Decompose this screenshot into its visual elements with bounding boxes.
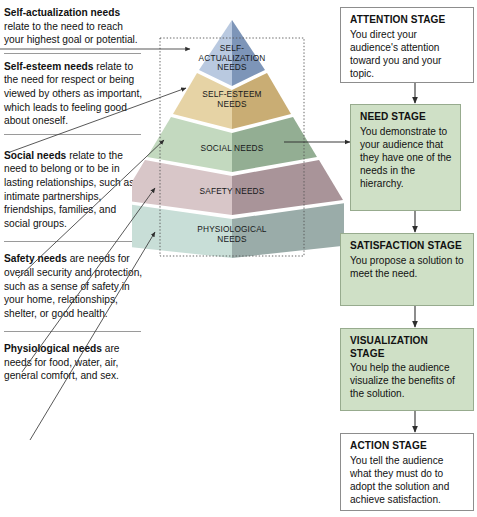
need-text-self-actualization: relate to the need to reach your highest…: [4, 21, 138, 46]
stage-title-attention: ATTENTION STAGE: [350, 14, 465, 27]
stage-title-visualization: VISUALIZATION STAGE: [350, 335, 465, 360]
stage-body-satisfaction: You propose a solution to meet the need.: [350, 254, 465, 280]
need-description-self-esteem: Self-esteem needs relate to the need for…: [4, 60, 144, 133]
stage-box-attention[interactable]: ATTENTION STAGE You direct your audience…: [340, 7, 474, 83]
need-term-safety: Safety needs: [4, 253, 67, 264]
need-term-physiological: Physiological needs: [4, 343, 102, 354]
stage-title-satisfaction: SATISFACTION STAGE: [350, 240, 465, 253]
needs-description-column: Self-actualization needs relate to the n…: [4, 6, 144, 388]
need-text-social: relate to the need to belong or to be in…: [4, 150, 134, 229]
need-term-self-esteem: Self-esteem needs: [4, 61, 93, 72]
motivated-sequence-column: ATTENTION STAGE You direct your audience…: [336, 0, 477, 517]
stage-body-action: You tell the audience what they must do …: [350, 454, 465, 506]
need-description-self-actualization: Self-actualization needs relate to the n…: [4, 6, 144, 52]
pyramid-level-self-actualization: [199, 20, 265, 86]
description-divider-2: [4, 134, 141, 135]
stage-box-action[interactable]: ACTION STAGE You tell the audience what …: [340, 433, 474, 511]
description-divider-3: [4, 241, 141, 242]
description-divider-1: [4, 53, 141, 54]
stage-box-satisfaction[interactable]: SATISFACTION STAGE You propose a solutio…: [340, 233, 474, 306]
stage-box-need[interactable]: NEED STAGE You demonstrate to your audie…: [350, 104, 461, 211]
description-divider-4: [4, 331, 141, 332]
need-description-safety: Safety needs are needs for overall secur…: [4, 252, 144, 325]
need-description-physiological: Physiological needs are needs for food, …: [4, 342, 144, 388]
apex-left-face: [199, 20, 232, 86]
stage-body-need: You demonstrate to your audience that th…: [360, 125, 452, 190]
needs-pyramid: SELF- ACTUALIZATION NEEDS SELF-ESTEEM NE…: [132, 16, 344, 272]
stage-body-visualization: You help the audience visualize the bene…: [350, 361, 465, 400]
need-term-social: Social needs: [4, 150, 66, 161]
stage-body-attention: You direct your audience's attention tow…: [350, 28, 465, 80]
pyramid-svg: [132, 16, 344, 272]
need-term-self-actualization: Self-actualization needs: [4, 7, 120, 18]
apex-right-face: [232, 20, 265, 86]
stage-title-action: ACTION STAGE: [350, 440, 465, 453]
stage-title-need: NEED STAGE: [360, 111, 452, 124]
need-description-social: Social needs relate to the need to belon…: [4, 149, 144, 236]
stage-box-visualization[interactable]: VISUALIZATION STAGE You help the audienc…: [340, 328, 474, 411]
